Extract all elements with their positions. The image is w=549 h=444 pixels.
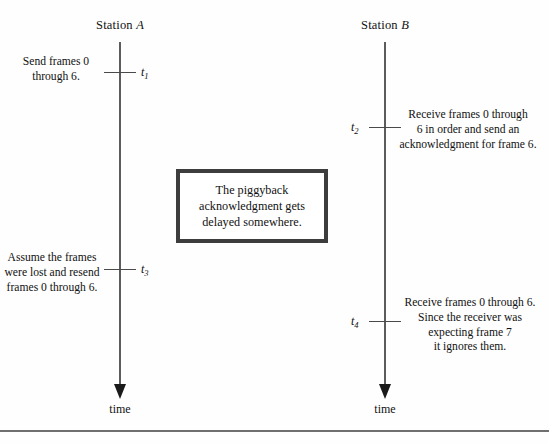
- event-note-t2: Receive frames 0 through 6 in order and …: [393, 108, 543, 152]
- event-label-t4-subscript: 4: [354, 320, 358, 330]
- piggyback-delay-callout-text: The piggyback acknowledgment gets delaye…: [191, 182, 313, 230]
- station-b-time-label: time: [345, 402, 425, 417]
- station-b-label-letter: B: [401, 18, 409, 32]
- event-note-t3-line2: were lost and resend: [2, 266, 102, 281]
- event-note-t4-line4: it ignores them.: [396, 340, 544, 355]
- event-note-t4-line1: Receive frames 0 through 6.: [396, 296, 544, 311]
- event-tick-t1: [104, 72, 136, 73]
- piggyback-delay-callout: The piggyback acknowledgment gets delaye…: [176, 169, 328, 243]
- event-label-t2-subscript: 2: [354, 126, 358, 136]
- event-note-t4: Receive frames 0 through 6. Since the re…: [396, 296, 544, 355]
- event-label-t3: t3: [141, 262, 149, 278]
- event-note-t2-line3: acknowledgment for frame 6.: [393, 138, 543, 153]
- event-note-t1-line1: Send frames 0: [10, 55, 102, 70]
- station-a-timeline-arrowhead: [114, 384, 126, 399]
- event-note-t1-line2: through 6.: [10, 70, 102, 85]
- callout-line1: The piggyback: [199, 182, 305, 198]
- event-note-t3-line1: Assume the frames: [2, 251, 102, 266]
- station-a-timeline: [119, 42, 121, 386]
- event-note-t4-line3: expecting frame 7: [396, 326, 544, 341]
- event-label-t1-subscript: 1: [144, 71, 148, 81]
- bottom-divider-rule: [0, 430, 549, 432]
- event-label-t4: t4: [351, 314, 359, 330]
- event-note-t3: Assume the frames were lost and resend f…: [2, 251, 102, 295]
- event-tick-t3: [104, 269, 136, 270]
- station-b-label-prefix: Station: [361, 18, 398, 32]
- event-label-t1: t1: [141, 65, 149, 81]
- station-a-time-label: time: [80, 402, 160, 417]
- protocol-timing-diagram: Station A Station B time time t1 Send fr…: [0, 0, 549, 444]
- event-note-t2-line1: Receive frames 0 through: [393, 108, 543, 123]
- event-note-t3-line3: frames 0 through 6.: [2, 281, 102, 296]
- station-b-timeline-arrowhead: [379, 384, 391, 399]
- event-note-t4-line2: Since the receiver was: [396, 311, 544, 326]
- event-note-t2-line2: 6 in order and send an: [393, 123, 543, 138]
- station-b-timeline: [384, 42, 386, 386]
- callout-line3: delayed somewhere.: [199, 214, 305, 230]
- callout-line2: acknowledgment gets: [199, 198, 305, 214]
- station-a-heading: Station A: [60, 18, 180, 33]
- station-a-label-prefix: Station: [96, 18, 133, 32]
- station-b-heading: Station B: [325, 18, 445, 33]
- event-label-t2: t2: [351, 120, 359, 136]
- station-a-label-letter: A: [136, 18, 144, 32]
- event-label-t3-subscript: 3: [144, 268, 148, 278]
- event-note-t1: Send frames 0 through 6.: [10, 55, 102, 85]
